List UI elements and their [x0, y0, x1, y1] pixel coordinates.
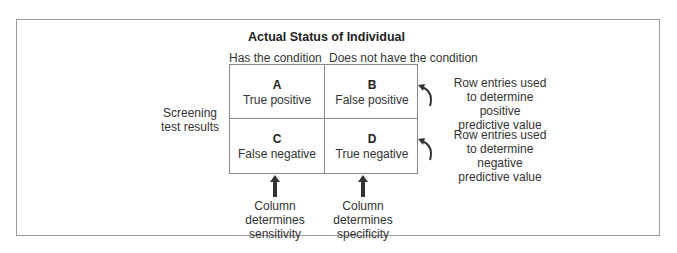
cell-c: C False negative — [230, 132, 324, 161]
contingency-table: A True positive B False positive C False… — [229, 64, 418, 174]
cell-letter: B — [325, 78, 419, 92]
cell-d: D True negative — [325, 132, 419, 161]
cell-b: B False positive — [325, 78, 419, 107]
cell-letter: C — [230, 132, 324, 146]
note-line: Column determines — [313, 199, 413, 227]
note-line: Row entries used — [442, 128, 558, 142]
title-text: Actual Status of Individual — [248, 30, 405, 44]
cell-label: True positive — [243, 93, 311, 107]
column-note-sensitivity: Column determines sensitivity — [225, 199, 325, 241]
note-line: predictive value — [442, 170, 558, 184]
note-line: Row entries used — [442, 76, 558, 90]
note-line: specificity — [313, 227, 413, 241]
column-note-specificity: Column determines specificity — [313, 199, 413, 241]
cell-a: A True positive — [230, 78, 324, 107]
column-header-no-condition: Does not have the condition — [329, 51, 478, 65]
diagram-title: Actual Status of Individual — [0, 30, 677, 44]
column-header-has-condition: Has the condition — [229, 51, 322, 65]
row-label-screening: Screening test results — [160, 106, 220, 134]
up-arrow-icon — [268, 175, 282, 197]
cell-letter: D — [325, 132, 419, 146]
cell-letter: A — [230, 78, 324, 92]
note-line: negative — [442, 156, 558, 170]
cell-label: False positive — [335, 93, 408, 107]
note-line: Column determines — [225, 199, 325, 227]
note-line: to determine — [442, 142, 558, 156]
row-label-line: Screening — [160, 106, 220, 120]
row-note-negative: Row entries used to determine negative p… — [442, 128, 558, 184]
note-line: positive — [442, 104, 558, 118]
curved-arrow-icon — [414, 136, 440, 166]
note-line: sensitivity — [225, 227, 325, 241]
cell-label: False negative — [238, 147, 316, 161]
row-note-positive: Row entries used to determine positive p… — [442, 76, 558, 132]
note-line: to determine — [442, 90, 558, 104]
curved-arrow-icon — [414, 82, 440, 112]
divider-horizontal — [230, 118, 417, 119]
row-label-line: test results — [160, 120, 220, 134]
up-arrow-icon — [356, 175, 370, 197]
cell-label: True negative — [336, 147, 409, 161]
